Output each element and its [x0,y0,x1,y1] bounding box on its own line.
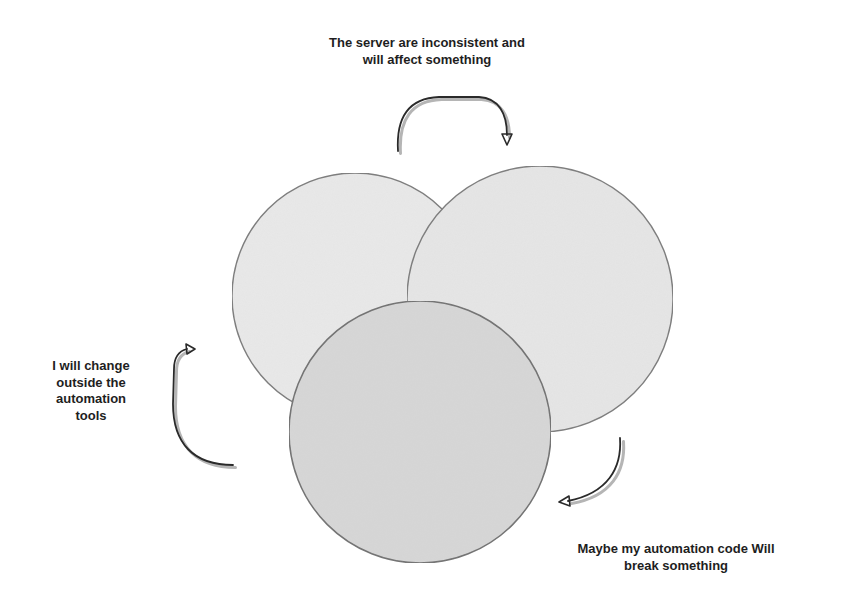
left-label-line-4: tools [30,408,152,425]
top-arrow-icon [398,97,512,154]
top-label-line-2: will affect something [327,52,527,69]
left-label-line-2: outside the [30,375,152,392]
top-label: The server are inconsistent and will aff… [327,35,527,68]
left-label-line-3: automation [30,391,152,408]
bottom-right-arrow-icon [559,438,624,506]
bottom-circle [289,301,551,563]
left-label-line-1: I will change [30,358,152,375]
top-label-line-1: The server are inconsistent and [327,35,527,52]
bottom-right-label-line-2: break something [536,558,816,575]
left-arrow-icon [173,344,236,468]
bottom-right-label: Maybe my automation code Will break some… [536,541,816,574]
diagram-canvas [0,0,846,605]
bottom-right-label-line-1: Maybe my automation code Will [536,541,816,558]
left-label: I will change outside the automation too… [30,358,152,424]
